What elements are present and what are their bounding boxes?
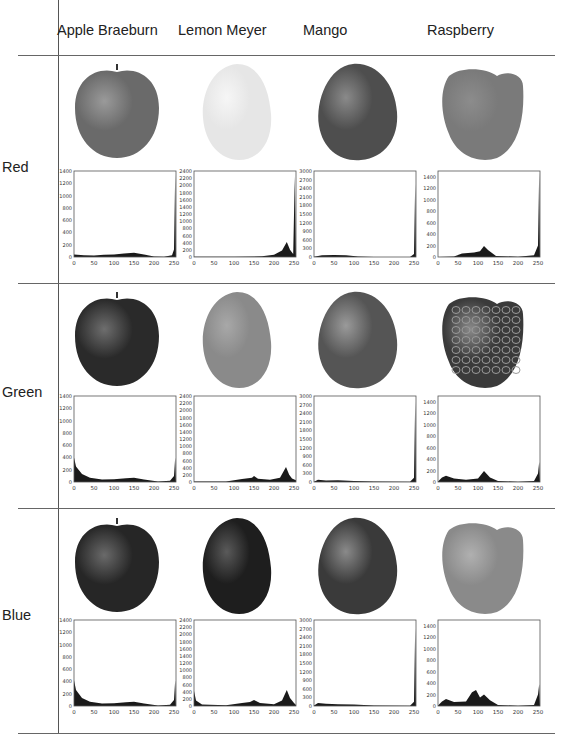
svg-text:800: 800	[62, 654, 72, 660]
svg-text:1200: 1200	[59, 405, 72, 411]
svg-text:300: 300	[302, 245, 312, 251]
svg-text:400: 400	[182, 465, 192, 471]
fruit-image-lemon-meyer-blue	[178, 512, 296, 622]
svg-text:0: 0	[192, 709, 196, 715]
svg-text:1800: 1800	[179, 190, 192, 196]
svg-text:2100: 2100	[299, 419, 312, 425]
svg-text:100: 100	[229, 485, 240, 491]
svg-text:1500: 1500	[299, 436, 312, 442]
svg-text:600: 600	[426, 220, 436, 226]
svg-text:150: 150	[129, 260, 140, 266]
histogram-raspberry-red: 0200400600800100012001400050100150200250	[422, 168, 544, 271]
svg-text:0: 0	[192, 485, 196, 491]
svg-text:400: 400	[182, 240, 192, 246]
svg-text:200: 200	[182, 472, 192, 478]
row-label-green: Green	[2, 384, 42, 400]
svg-text:900: 900	[302, 228, 312, 234]
svg-text:1400: 1400	[423, 174, 436, 180]
svg-text:50: 50	[455, 260, 462, 266]
svg-text:800: 800	[62, 205, 72, 211]
svg-text:3000: 3000	[299, 168, 312, 174]
svg-text:50: 50	[211, 485, 218, 491]
svg-text:2400: 2400	[299, 185, 312, 191]
svg-text:0: 0	[436, 709, 440, 715]
svg-text:1000: 1000	[423, 422, 436, 428]
column-header-apple: Apple Braeburn	[57, 22, 158, 38]
svg-text:2400: 2400	[179, 168, 192, 174]
svg-text:1400: 1400	[59, 168, 72, 174]
svg-text:1000: 1000	[179, 218, 192, 224]
svg-text:1200: 1200	[299, 445, 312, 451]
svg-text:200: 200	[389, 485, 400, 491]
svg-text:100: 100	[349, 485, 360, 491]
svg-text:2700: 2700	[299, 626, 312, 632]
svg-text:400: 400	[62, 678, 72, 684]
svg-text:1800: 1800	[179, 415, 192, 421]
svg-text:2400: 2400	[299, 634, 312, 640]
svg-text:1000: 1000	[59, 418, 72, 424]
svg-text:1200: 1200	[423, 410, 436, 416]
svg-text:2200: 2200	[179, 400, 192, 406]
svg-text:100: 100	[109, 485, 120, 491]
svg-text:100: 100	[473, 485, 484, 491]
histogram-lemon-meyer-green: 0200400600800100012001400160018002000220…	[178, 393, 300, 496]
svg-text:200: 200	[269, 485, 280, 491]
svg-text:1200: 1200	[299, 220, 312, 226]
row-label-blue: Blue	[2, 607, 31, 623]
fruit-image-mango-green	[298, 286, 416, 396]
histogram-apple-braeburn-green: 0200400600800100012001400050100150200250	[58, 393, 180, 496]
svg-text:200: 200	[513, 260, 524, 266]
svg-text:1200: 1200	[59, 180, 72, 186]
svg-text:600: 600	[302, 462, 312, 468]
svg-text:1400: 1400	[59, 393, 72, 399]
svg-text:2400: 2400	[299, 410, 312, 416]
fruit-image-raspberry-green	[422, 286, 540, 396]
svg-text:200: 200	[389, 709, 400, 715]
svg-text:1800: 1800	[299, 427, 312, 433]
row-rule-red	[18, 283, 555, 284]
svg-text:600: 600	[182, 682, 192, 688]
histogram-lemon-meyer-red: 0200400600800100012001400160018002000220…	[178, 168, 300, 271]
svg-text:1800: 1800	[299, 651, 312, 657]
svg-text:600: 600	[302, 686, 312, 692]
svg-text:600: 600	[182, 458, 192, 464]
svg-text:0: 0	[72, 709, 76, 715]
svg-text:1200: 1200	[179, 436, 192, 442]
svg-text:1000: 1000	[59, 193, 72, 199]
svg-text:2700: 2700	[299, 177, 312, 183]
svg-text:100: 100	[229, 260, 240, 266]
svg-text:1200: 1200	[179, 211, 192, 217]
svg-text:200: 200	[182, 696, 192, 702]
svg-text:150: 150	[369, 709, 380, 715]
svg-text:0: 0	[192, 260, 196, 266]
svg-text:400: 400	[62, 454, 72, 460]
column-header-lemon: Lemon Meyer	[178, 22, 267, 38]
svg-text:1400: 1400	[179, 653, 192, 659]
histogram-mango-red: 0300600900120015001800210024002700300005…	[298, 168, 420, 271]
svg-text:2200: 2200	[179, 624, 192, 630]
svg-text:2100: 2100	[299, 194, 312, 200]
svg-text:50: 50	[211, 260, 218, 266]
column-header-mango: Mango	[303, 22, 347, 38]
svg-text:1400: 1400	[423, 623, 436, 629]
svg-text:2000: 2000	[179, 407, 192, 413]
svg-text:250: 250	[533, 709, 544, 715]
svg-text:0: 0	[72, 260, 76, 266]
svg-text:400: 400	[62, 229, 72, 235]
svg-text:2200: 2200	[179, 175, 192, 181]
svg-text:1600: 1600	[179, 197, 192, 203]
svg-text:50: 50	[331, 485, 338, 491]
svg-text:2700: 2700	[299, 402, 312, 408]
svg-text:200: 200	[182, 247, 192, 253]
svg-text:1200: 1200	[59, 629, 72, 635]
svg-text:200: 200	[513, 709, 524, 715]
svg-text:150: 150	[129, 709, 140, 715]
svg-text:1000: 1000	[423, 646, 436, 652]
svg-text:800: 800	[426, 657, 436, 663]
svg-text:0: 0	[436, 485, 440, 491]
histogram-raspberry-blue: 0200400600800100012001400050100150200250	[422, 617, 544, 720]
svg-text:250: 250	[409, 709, 420, 715]
svg-text:800: 800	[426, 433, 436, 439]
fruit-image-mango-blue	[298, 512, 416, 622]
svg-text:300: 300	[302, 470, 312, 476]
